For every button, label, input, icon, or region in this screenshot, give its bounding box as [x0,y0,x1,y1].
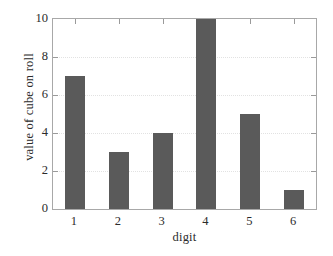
x-tick-label: 5 [229,214,269,228]
x-tick-label: 2 [98,214,138,228]
y-axis-tick-labels: 0246810 [0,18,48,210]
plot-area [52,18,317,210]
bar-chart-figure: value of cube on roll 0246810 123456 dig… [0,0,333,256]
y-tick-label: 2 [4,164,48,176]
y-tick-label: 8 [4,50,48,62]
x-tick-label: 4 [185,214,225,228]
bar [196,19,216,209]
x-tick-label: 6 [273,214,313,228]
y-tick-label: 6 [4,88,48,100]
x-axis-title: digit [52,230,317,245]
bar [153,133,173,209]
x-axis-tick-labels: 123456 [52,214,317,230]
x-tick-label: 1 [54,214,94,228]
x-tick-label: 3 [142,214,182,228]
y-tick-label: 4 [4,126,48,138]
bar [65,76,85,209]
bar [240,114,260,209]
y-tick-label: 0 [4,202,48,214]
bar [109,152,129,209]
bar [284,190,304,209]
y-tick-label: 10 [4,12,48,24]
bar-series [53,19,316,209]
